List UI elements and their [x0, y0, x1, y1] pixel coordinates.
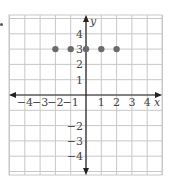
y-tick-label: 1 [76, 74, 83, 87]
x-tick-label: −2 [47, 96, 63, 109]
data-point [83, 46, 89, 52]
y-tick-label: −3 [67, 135, 83, 148]
x-tick-label: 2 [113, 96, 120, 109]
y-tick-label: 4 [76, 28, 83, 41]
y-axis-label: y [89, 15, 97, 28]
data-point [113, 46, 119, 52]
x-axis-label: x [154, 96, 161, 109]
x-tick-label: 3 [128, 96, 135, 109]
y-tick-label: 3 [76, 43, 83, 56]
axes [9, 15, 162, 175]
data-point [52, 46, 58, 52]
x-tick-label: −3 [32, 96, 48, 109]
x-tick-label: 4 [144, 96, 151, 109]
coordinate-plane: −4−3−2−11234−4−3−21234xy [0, 0, 170, 182]
y-tick-label: −4 [67, 150, 83, 163]
y-tick-label: −2 [67, 120, 83, 133]
y-tick-label: 2 [76, 58, 83, 71]
data-point [98, 46, 104, 52]
x-tick-label: −1 [63, 96, 79, 109]
x-tick-label: 1 [98, 96, 105, 109]
x-axis-left-arrow-icon [9, 92, 16, 98]
data-point [68, 46, 74, 52]
x-tick-label: −4 [17, 96, 33, 109]
